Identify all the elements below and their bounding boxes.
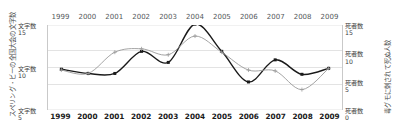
year-label-top-2001: 2001 (101, 13, 128, 21)
y-left-tick-value-0: 15 (18, 29, 36, 36)
year-label-bottom-1999: 1999 (47, 112, 74, 121)
series-line-0 (61, 25, 328, 82)
series-1 (59, 34, 330, 92)
data-point-1-7 (246, 68, 250, 72)
year-label-top-2002: 2002 (128, 13, 155, 21)
y-right-tick-name-3: 死者数 (345, 107, 363, 114)
series-0 (60, 25, 330, 83)
year-label-top-2007: 2007 (262, 13, 289, 21)
year-label-bottom-2006: 2006 (235, 112, 262, 121)
year-label-top-2008: 2008 (289, 13, 316, 21)
y-right-tick-value-3: 0 (345, 114, 363, 121)
plot-area (47, 25, 343, 110)
data-point-1-4 (166, 53, 170, 57)
y-left-tick-name-2: 文字数 (18, 107, 36, 114)
y-right-tick-0: 死者数15 (345, 22, 363, 37)
y-right-tick-name-1: 死者数 (345, 50, 363, 57)
x-axis-top-labels: 1999200020012002200320042005200620072008… (47, 13, 343, 21)
year-label-bottom-2009: 2009 (316, 112, 343, 121)
year-label-bottom-2000: 2000 (74, 112, 101, 121)
y-left-tick-value-2: 5 (18, 114, 36, 121)
y-right-tick-value-1: 10 (345, 58, 363, 65)
y-left-tick-name-1: 文字数 (18, 65, 36, 72)
year-label-top-2005: 2005 (208, 13, 235, 21)
y-left-tick-name-0: 文字数 (18, 22, 36, 29)
year-label-bottom-2003: 2003 (155, 112, 182, 121)
year-label-top-2006: 2006 (235, 13, 262, 21)
data-point-1-5 (193, 34, 197, 38)
plot-svg (48, 25, 342, 110)
year-label-top-1999: 1999 (47, 13, 74, 21)
year-label-bottom-2004: 2004 (182, 112, 209, 121)
year-label-bottom-2008: 2008 (289, 112, 316, 121)
year-label-bottom-2007: 2007 (262, 112, 289, 121)
year-label-bottom-2005: 2005 (208, 112, 235, 121)
y-axis-right-ticks: 死者数15死者数10死者数5死者数0 (345, 0, 379, 137)
y-right-tick-value-0: 15 (345, 29, 363, 36)
year-label-bottom-2001: 2001 (101, 112, 128, 121)
y-left-tick-1: 文字数10 (18, 65, 36, 80)
year-label-bottom-2002: 2002 (128, 112, 155, 121)
year-label-top-2009: 2009 (316, 13, 343, 21)
series-line-1 (61, 36, 328, 90)
y-right-tick-2: 死者数5 (345, 79, 363, 94)
data-point-1-8 (273, 69, 277, 73)
y-left-tick-2: 文字数5 (18, 107, 36, 122)
year-label-top-2003: 2003 (155, 13, 182, 21)
data-point-0-7 (247, 80, 250, 83)
y-axis-left-title: スペリング・ビーの全国大会の文字数 (8, 5, 17, 125)
year-label-top-2000: 2000 (74, 13, 101, 21)
data-point-0-4 (167, 61, 170, 64)
y-right-tick-3: 死者数0 (345, 107, 363, 122)
chart-container: スペリング・ビーの全国大会の文字数 毒グモに刺されて死ぬ人数 文字数15文字数1… (0, 0, 393, 137)
data-point-0-2 (113, 72, 116, 75)
data-point-0-5 (194, 25, 197, 26)
x-axis-bottom-labels: 1999200020012002200320042005200620072008… (47, 112, 343, 121)
data-point-1-9 (300, 88, 304, 92)
y-right-tick-1: 死者数10 (345, 50, 363, 65)
data-point-0-9 (300, 73, 303, 76)
year-label-top-2004: 2004 (182, 13, 209, 21)
y-left-tick-value-1: 10 (18, 72, 36, 79)
y-right-tick-value-2: 5 (345, 86, 363, 93)
y-right-tick-name-2: 死者数 (345, 79, 363, 86)
y-right-tick-name-0: 死者数 (345, 22, 363, 29)
data-point-0-8 (274, 58, 277, 61)
y-left-tick-0: 文字数15 (18, 22, 36, 37)
y-axis-right-title: 毒グモに刺されて死ぬ人数 (383, 17, 392, 137)
